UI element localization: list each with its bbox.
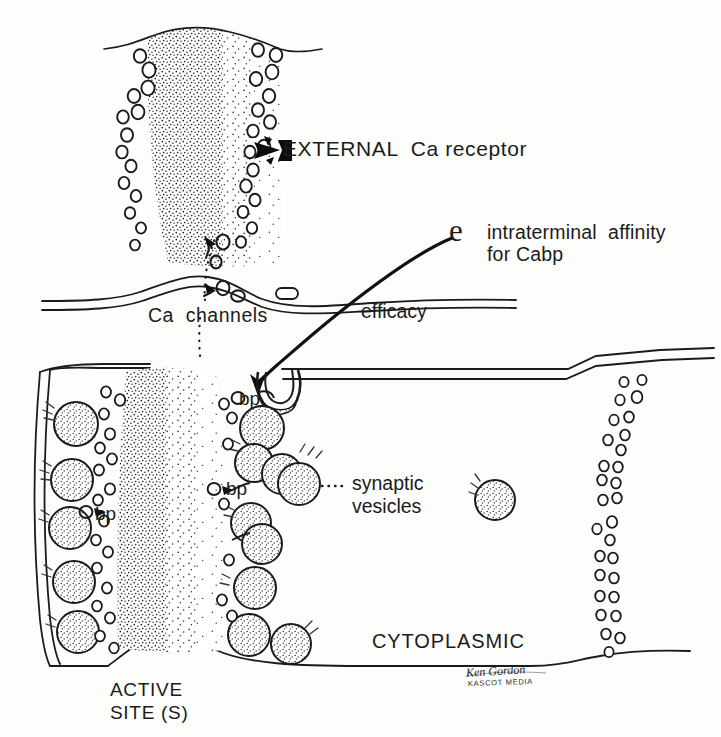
label-bp-center: bp (226, 478, 247, 499)
synaptic-vesicles-left-wall (39, 402, 99, 653)
label-active-sites: ACTIVE SITE (S) (110, 679, 188, 725)
label-bp-release-site: bp (239, 388, 260, 409)
intraterminal-calcium-gradient (110, 360, 230, 660)
figure-canvas: EXTERNAL Ca receptor e intraterminal aff… (0, 0, 721, 737)
synaptic-vesicles-center (220, 406, 322, 664)
label-intraterminal-affinity: intraterminal affinity for Cabp (487, 222, 666, 266)
label-cytoplasmic: CYTOPLASMIC (372, 630, 525, 652)
label-external-ca-receptor: EXTERNAL Ca receptor (283, 137, 527, 161)
label-efficacy: efficacy (361, 301, 427, 323)
label-bp-left: bp (95, 503, 116, 524)
label-ca-channels: Ca channels (148, 305, 268, 327)
free-synaptic-vesicle (469, 474, 515, 520)
label-efficacy-symbol: e (449, 214, 463, 249)
label-synaptic-vesicles: synaptic vesicles (352, 472, 424, 517)
calcium-influx-column-right (592, 375, 646, 657)
synapse-diagram (0, 0, 721, 737)
